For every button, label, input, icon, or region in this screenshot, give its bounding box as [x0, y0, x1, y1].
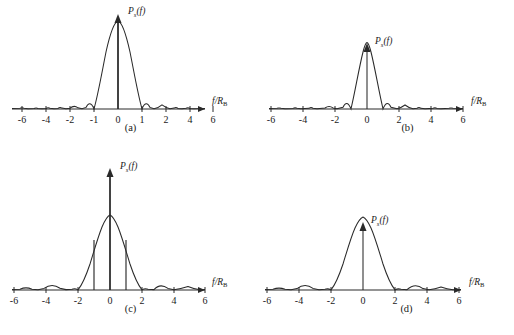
- psd-curve: [12, 21, 205, 109]
- y-axis-label: Ps(f): [127, 6, 145, 18]
- panel-caption: (a): [6, 122, 255, 133]
- psd-curve: [12, 215, 205, 290]
- svg-text:-6: -6: [263, 295, 271, 306]
- psd-figure-grid: -6 -4 -2 -1 0 1 2 4 6 Ps(f) f/RB (a): [0, 0, 514, 335]
- x-axis-label: f/RB: [212, 277, 228, 288]
- panel-caption: (c): [6, 303, 255, 314]
- y-axis-label: Ps(f): [119, 161, 137, 173]
- panel-caption: (d): [299, 303, 514, 314]
- psd-curve: [269, 43, 463, 109]
- x-axis-label: f/RB: [469, 277, 485, 288]
- panel-d: -6 -4 -2 0 2 4 6 Ps(f) f/RB (d): [255, 155, 514, 335]
- panel-a: -6 -4 -2 -1 0 1 2 4 6 Ps(f) f/RB (a): [0, 0, 255, 155]
- svg-text:-6: -6: [267, 114, 275, 125]
- panel-caption: (b): [301, 122, 514, 133]
- x-axis-label: f/RB: [212, 96, 228, 107]
- y-axis-label: Ps(f): [370, 215, 388, 227]
- x-axis-label: f/RB: [471, 96, 487, 107]
- panel-c: -6 -4 -2 0 2 4 6 Ps(f) f/RB (c): [0, 155, 255, 335]
- y-axis-arrow: [360, 222, 367, 231]
- y-axis-label: Ps(f): [374, 36, 392, 48]
- panel-b: -6 -4 -2 0 2 4 6 Ps(f) f/RB (b): [255, 0, 514, 155]
